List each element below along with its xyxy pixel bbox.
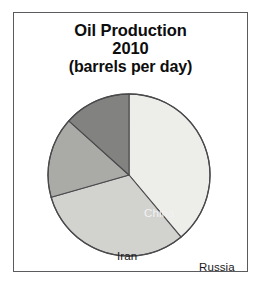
chart-title-line-3: (barrels per day) [13,58,248,76]
chart-title-line-2: 2010 [13,39,248,57]
chart-title: Oil Production 2010 (barrels per day) [13,21,248,76]
pie-chart: Russia Saudi Arabia Iran China [47,93,211,257]
pie-svg [47,93,211,257]
slice-label-iran: Iran [117,250,137,262]
pie-chart-figure: Oil Production 2010 (barrels per day) Ru… [0,0,263,287]
chart-title-line-1: Oil Production [13,21,248,39]
slice-label-china: China [144,207,175,219]
slice-label-russia: Russia [199,261,235,273]
pie-slice-group [48,94,210,256]
